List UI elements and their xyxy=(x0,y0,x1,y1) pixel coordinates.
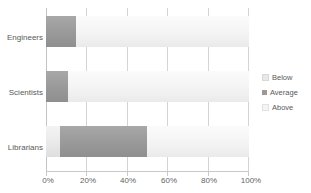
bar-segment-average xyxy=(46,16,76,47)
legend-item-above[interactable]: Above xyxy=(262,100,311,115)
legend-swatch-icon xyxy=(262,74,269,81)
x-axis-tick-label-80: 80% xyxy=(201,176,217,185)
x-axis-tick-label-40: 40% xyxy=(120,176,136,185)
bar-segment-average xyxy=(46,71,68,102)
legend-item-below[interactable]: Below xyxy=(262,70,311,85)
y-axis-label-scientists: Scientists xyxy=(9,88,43,97)
x-axis-tick-label-0: 0% xyxy=(42,176,54,185)
bar-librarians xyxy=(46,126,249,157)
x-axis-line xyxy=(46,171,249,172)
plot-area xyxy=(46,8,249,172)
x-axis-tick-label-60: 60% xyxy=(161,176,177,185)
legend-label: Above xyxy=(272,103,293,112)
legend: Below Average Above xyxy=(262,70,311,115)
x-axis-tick-label-20: 20% xyxy=(80,176,96,185)
y-axis-label-engineers: Engineers xyxy=(7,33,43,42)
legend-label: Below xyxy=(272,73,292,82)
bar-segment-above xyxy=(147,126,249,157)
legend-label: Average xyxy=(270,88,298,97)
bar-segment-above xyxy=(68,71,249,102)
bar-engineers xyxy=(46,16,249,47)
bar-segment-below xyxy=(46,126,60,157)
legend-swatch-icon xyxy=(262,90,267,95)
legend-item-average[interactable]: Average xyxy=(262,85,311,100)
bar-segment-above xyxy=(76,16,249,47)
bar-segment-average xyxy=(60,126,147,157)
stacked-bar-chart: Engineers Scientists Librarians xyxy=(0,0,311,193)
x-axis-tick-label-100: 100% xyxy=(241,176,261,185)
y-axis-label-librarians: Librarians xyxy=(8,143,43,152)
bar-scientists xyxy=(46,71,249,102)
legend-swatch-icon xyxy=(262,104,269,111)
